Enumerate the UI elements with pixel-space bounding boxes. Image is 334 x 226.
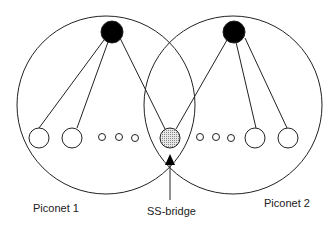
ellipsis-dot [132,135,139,142]
bridge-node [160,128,180,148]
slave-node [278,128,298,148]
ellipsis-dot [116,134,123,141]
slave-node [29,128,49,148]
arrow-head-icon [165,154,175,165]
slave-node [245,128,265,148]
piconet-2-label: Piconet 2 [264,197,310,209]
ellipsis-dot [99,134,106,141]
master-node-1 [101,21,123,43]
ellipsis-dot [228,135,235,142]
piconet-1-boundary [17,16,195,194]
scatternet-diagram: Piconet 1 SS-bridge Piconet 2 [0,0,334,226]
ellipsis-dot [213,134,220,141]
bridge-label: SS-bridge [147,205,196,217]
master-node-2 [223,21,245,43]
ellipsis-dot [197,134,204,141]
slave-node [62,128,82,148]
piconet-1-label: Piconet 1 [33,202,79,214]
